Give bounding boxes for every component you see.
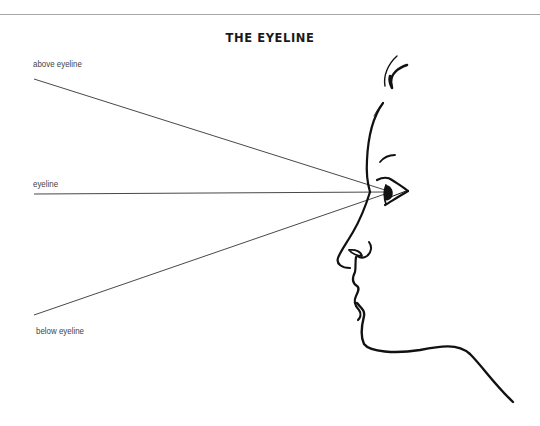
eyebrow bbox=[380, 155, 395, 162]
sight-line-above bbox=[34, 79, 385, 190]
nostril bbox=[349, 250, 362, 256]
sight-lines bbox=[34, 79, 385, 315]
sight-line-below bbox=[34, 194, 385, 315]
head-profile bbox=[338, 56, 513, 402]
sight-line-eyeline bbox=[34, 192, 385, 194]
lips-chin bbox=[353, 257, 361, 320]
eyeline-drawing bbox=[0, 0, 540, 426]
jaw-neck bbox=[357, 303, 513, 402]
iris-icon bbox=[384, 185, 393, 200]
ear-hook bbox=[390, 65, 407, 88]
